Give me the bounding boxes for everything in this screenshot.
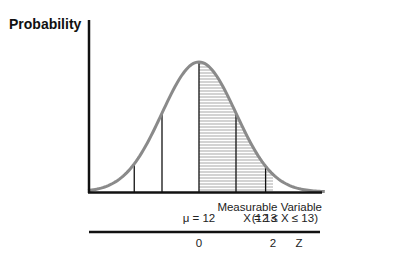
z-tick-label: 2 (270, 237, 276, 249)
y-axis-label: Probability (9, 16, 82, 32)
mean-label: μ = 12 (183, 212, 216, 224)
z-tick-label: 0 (196, 237, 202, 249)
normal-distribution-chart: Probability Measurable Variable (12 ≤ X … (0, 0, 393, 260)
z-axis-label: Z (295, 237, 302, 249)
x-marker-label: X = 13 (243, 212, 277, 224)
